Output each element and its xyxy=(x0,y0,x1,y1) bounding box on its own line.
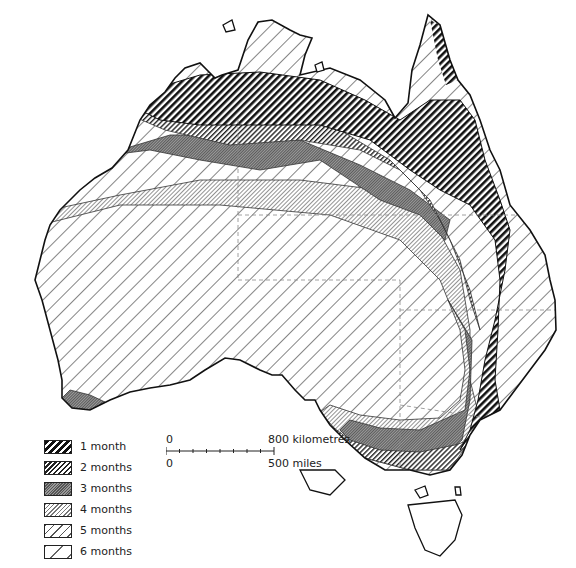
scale-mi-max: 500 miles xyxy=(268,457,322,470)
legend-label: 3 months xyxy=(80,482,132,495)
legend: 1 month 2 months 3 months 4 months 5 mon… xyxy=(44,436,132,562)
legend-item-4-months: 4 months xyxy=(44,499,132,520)
legend-item-3-months: 3 months xyxy=(44,478,132,499)
legend-label: 4 months xyxy=(80,503,132,516)
pattern-swatch-2-months xyxy=(44,461,72,475)
legend-label: 6 months xyxy=(80,545,132,558)
scale-km-zero: 0 xyxy=(166,433,173,446)
scale-ruler xyxy=(166,447,276,455)
pattern-swatch-6-months xyxy=(44,545,72,559)
pattern-swatch-1-month xyxy=(44,440,72,454)
scale-mi-zero: 0 xyxy=(166,457,173,470)
legend-item-5-months: 5 months xyxy=(44,520,132,541)
legend-label: 5 months xyxy=(80,524,132,537)
pattern-swatch-3-months xyxy=(44,482,72,496)
scale-bar: 0 800 kilometres 0 500 miles xyxy=(160,433,360,473)
legend-label: 2 months xyxy=(80,461,132,474)
legend-item-6-months: 6 months xyxy=(44,541,132,562)
tasmania xyxy=(408,500,462,556)
scale-km-max: 800 kilometres xyxy=(268,433,350,446)
pattern-swatch-4-months xyxy=(44,503,72,517)
legend-item-1-month: 1 month xyxy=(44,436,132,457)
legend-label: 1 month xyxy=(80,440,126,453)
legend-item-2-months: 2 months xyxy=(44,457,132,478)
pattern-swatch-5-months xyxy=(44,524,72,538)
